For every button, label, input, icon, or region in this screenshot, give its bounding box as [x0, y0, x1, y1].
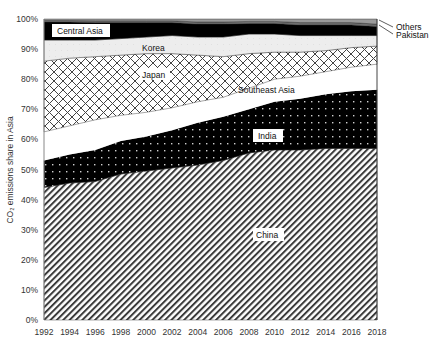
label-korea: Korea	[142, 43, 165, 53]
y-tick-label: 30%	[21, 225, 38, 235]
x-tick-label: 1998	[111, 327, 130, 337]
x-tick-label: 1992	[35, 327, 54, 337]
y-tick-label: 50%	[21, 165, 38, 175]
x-tick-label: 2000	[137, 327, 156, 337]
y-tick-label: 100%	[16, 14, 38, 24]
x-tick-label: 2002	[163, 327, 182, 337]
y-tick-label: 90%	[21, 44, 38, 54]
x-tick-label: 1994	[60, 327, 79, 337]
y-tick-label: 20%	[21, 255, 38, 265]
x-tick-label: 2018	[368, 327, 387, 337]
label-india: India	[258, 131, 277, 141]
plot-areas	[44, 19, 377, 320]
label-pakistan: Pakistan	[396, 30, 429, 40]
label-japan: Japan	[142, 70, 165, 80]
x-tick-label: 2008	[239, 327, 258, 337]
x-tick-label: 2012	[291, 327, 310, 337]
x-tick-label: 2014	[316, 327, 335, 337]
x-tick-label: 2006	[214, 327, 233, 337]
y-tick-label: 80%	[21, 74, 38, 84]
y-tick-label: 10%	[21, 285, 38, 295]
x-tick-label: 1996	[86, 327, 105, 337]
stacked-area-chart: 0%10%20%30%40%50%60%70%80%90%100% 199219…	[0, 0, 443, 353]
y-axis-ticks: 0%10%20%30%40%50%60%70%80%90%100%	[16, 14, 38, 325]
label-central-asia: Central Asia	[57, 26, 103, 36]
label-southeast-asia: Southeast Asia	[238, 85, 295, 95]
x-tick-label: 2010	[265, 327, 284, 337]
x-axis-ticks: 1992199419961998200020022004200620082010…	[35, 327, 387, 337]
y-tick-label: 0%	[26, 315, 39, 325]
x-tick-label: 2016	[342, 327, 361, 337]
x-tick-label: 2004	[188, 327, 207, 337]
y-tick-label: 70%	[21, 104, 38, 114]
y-tick-label: 40%	[21, 195, 38, 205]
y-axis-label: CO₂ emissions share in Asia	[5, 116, 15, 224]
label-china: China	[256, 230, 278, 240]
y-tick-label: 60%	[21, 134, 38, 144]
